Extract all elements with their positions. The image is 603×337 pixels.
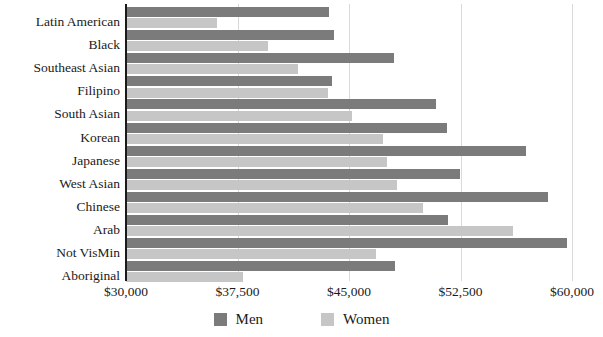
legend-label: Men [236, 311, 264, 328]
value-tick-label: $30,000 [104, 284, 148, 300]
category-label: Japanese [0, 155, 120, 167]
category-label: Korean [0, 132, 120, 144]
bar-women [126, 226, 513, 236]
value-tick-label: $60,000 [550, 284, 594, 300]
bar-women [126, 249, 376, 259]
value-axis-tick-labels: $30,000$37,500$45,000$52,500$60,000 [0, 284, 603, 304]
category-label: Filipino [0, 85, 120, 97]
bar-women [126, 41, 268, 51]
category-label: Aboriginal [0, 270, 120, 282]
bar-men [126, 76, 332, 86]
category-label: South Asian [0, 108, 120, 120]
category-label: West Asian [0, 178, 120, 190]
value-axis-line [125, 4, 127, 281]
category-axis-labels: Latin AmericanBlackSoutheast AsianFilipi… [0, 4, 120, 281]
value-tick-label: $37,500 [216, 284, 260, 300]
gridline [572, 4, 573, 281]
bar-women [126, 203, 423, 213]
bar-men [126, 238, 567, 248]
bar-men [126, 192, 548, 202]
category-label: Arab [0, 224, 120, 236]
bar-men [126, 261, 395, 271]
bar-women [126, 134, 383, 144]
bar-men [126, 7, 329, 17]
women-swatch-icon [321, 313, 334, 326]
legend-label: Women [343, 311, 389, 328]
bar-men [126, 169, 460, 179]
bar-men [126, 53, 394, 63]
bar-women [126, 180, 397, 190]
men-swatch-icon [214, 313, 227, 326]
category-label: Black [0, 39, 120, 51]
horizontal-bar-chart: Latin AmericanBlackSoutheast AsianFilipi… [0, 0, 603, 337]
bar-women [126, 272, 243, 282]
legend-item-women[interactable]: Women [321, 311, 389, 328]
category-label: Latin American [0, 16, 120, 28]
legend-item-men[interactable]: Men [214, 311, 264, 328]
bar-women [126, 157, 387, 167]
bar-men [126, 215, 448, 225]
value-tick-label: $45,000 [327, 284, 371, 300]
category-label: Southeast Asian [0, 62, 120, 74]
bar-women [126, 88, 328, 98]
bar-women [126, 64, 298, 74]
bar-women [126, 18, 217, 28]
bar-women [126, 111, 352, 121]
bar-men [126, 30, 334, 40]
value-tick-label: $52,500 [439, 284, 483, 300]
plot-area [126, 4, 572, 281]
bar-men [126, 146, 526, 156]
chart-legend: MenWomen [0, 308, 603, 330]
bar-men [126, 99, 436, 109]
category-label: Chinese [0, 201, 120, 213]
category-label: Not VisMin [0, 247, 120, 259]
bar-men [126, 123, 447, 133]
